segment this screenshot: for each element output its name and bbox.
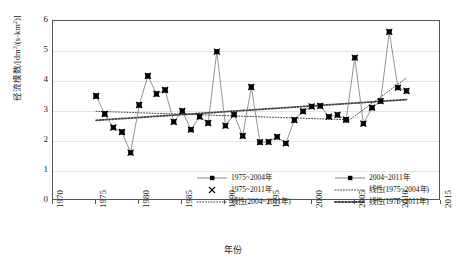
x-tick-mark-2010 (397, 200, 398, 204)
x-tick-label-1980: 1980 (142, 190, 151, 208)
y-tick-label-1: 1 (32, 165, 48, 174)
x-tick-mark-2005 (354, 200, 355, 204)
x-tick-label-2010: 2010 (401, 190, 410, 208)
y-tick-label-5: 5 (32, 45, 48, 54)
x-tick-label-1995: 1995 (272, 190, 281, 208)
legend-entry-0[interactable]: 1975~2004年 (196, 173, 334, 183)
x-tick-label-1975: 1975 (99, 190, 108, 208)
legend-label: 线性(1975~2011年) (369, 197, 429, 207)
y-axis-title-end: )] (12, 15, 22, 21)
runoff-modulus-chart: 径流模数/[dm3/(s·km2)] 6543210 1975~2004年200… (0, 0, 465, 265)
series-line-1 (346, 32, 406, 124)
series-line-0 (96, 52, 346, 153)
y-tick-label-6: 6 (32, 15, 48, 24)
legend-label: 1975~2011年 (231, 185, 272, 195)
x-tick-mark-1970 (52, 200, 53, 204)
x-tick-label-1990: 1990 (228, 190, 237, 208)
y-tick-label-0: 0 (32, 195, 48, 204)
x-tick-mark-1980 (138, 200, 139, 204)
y-tick-label-4: 4 (32, 75, 48, 84)
trendline-2 (96, 100, 406, 121)
y-axis-title-sup1: 3 (12, 46, 18, 49)
line-square-marker-icon (334, 173, 366, 183)
plot-area: 1975~2004年2004~2011年1975~2011年线性(1975~20… (52, 20, 440, 200)
y-tick-label-2: 2 (32, 135, 48, 144)
x-tick-mark-1990 (224, 200, 225, 204)
x-tick-label-1985: 1985 (185, 190, 194, 208)
y-axis-title-mid: /(s·km (12, 24, 22, 46)
x-tick-mark-2015 (440, 200, 441, 204)
y-axis-title: 径流模数/[dm3/(s·km2)] (10, 0, 23, 128)
x-tick-mark-1985 (181, 200, 182, 204)
legend-entry-1[interactable]: 2004~2011年 (334, 173, 465, 183)
x-tick-label-2000: 2000 (315, 190, 324, 208)
fine-dotted-line-icon (196, 197, 228, 207)
y-tick-label-3: 3 (32, 105, 48, 114)
x-axis-title: 年份 (0, 243, 465, 256)
legend-label: 2004~2011年 (369, 173, 410, 183)
x-tick-label-1970: 1970 (56, 190, 65, 208)
legend-label: 1975~2004年 (231, 173, 272, 183)
x-tick-mark-1975 (95, 200, 96, 204)
cross-marker-icon (196, 185, 228, 195)
y-axis-title-main: 径流模数/[dm (12, 49, 22, 101)
x-tick-label-2015: 2015 (444, 190, 453, 208)
x-tick-label-2005: 2005 (358, 190, 367, 208)
x-tick-mark-2000 (311, 200, 312, 204)
line-square-marker-icon (196, 173, 228, 183)
x-tick-mark-1995 (268, 200, 269, 204)
legend-label: 线性(2004~2011年) (231, 197, 291, 207)
y-axis-title-sup2: 2 (12, 21, 18, 24)
